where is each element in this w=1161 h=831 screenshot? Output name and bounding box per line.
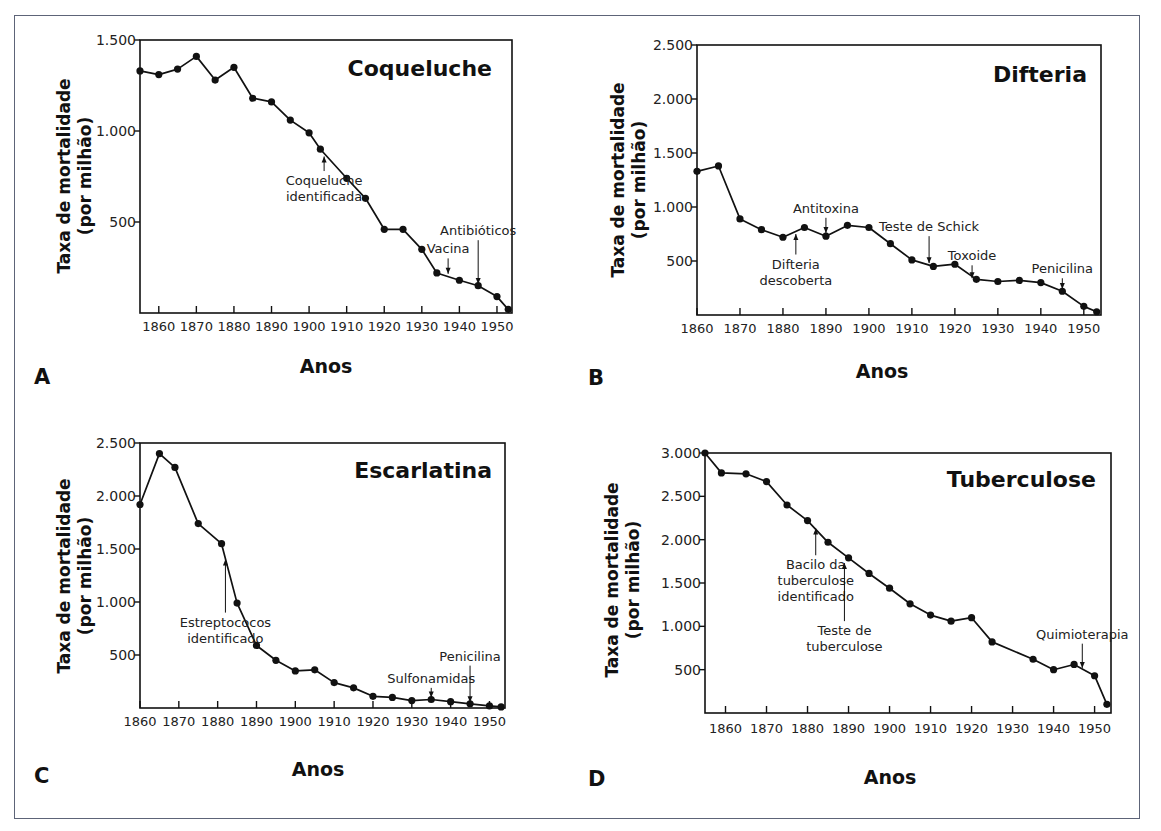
data-point — [1091, 672, 1098, 679]
x-tick-label: 1880 — [791, 721, 824, 736]
x-tick-label: 1860 — [123, 714, 156, 729]
x-axis-title: Anos — [292, 758, 345, 780]
data-point — [742, 470, 749, 477]
x-tick-label: 1880 — [217, 319, 250, 334]
data-point — [195, 520, 202, 527]
y-tick-label: 1.000 — [653, 199, 693, 215]
data-point — [493, 293, 500, 300]
data-point — [249, 95, 256, 102]
annotation-label: Vacina — [427, 241, 470, 256]
data-point — [369, 693, 376, 700]
x-tick-label: 1900 — [852, 321, 885, 336]
data-point — [287, 116, 294, 123]
data-point — [174, 66, 181, 73]
x-tick-label: 1920 — [368, 319, 401, 334]
data-point — [715, 162, 722, 169]
x-axis-title: Anos — [300, 355, 353, 377]
x-tick-label: 1940 — [443, 319, 476, 334]
x-tick-label: 1940 — [1024, 321, 1057, 336]
data-point — [804, 517, 811, 524]
annotation-label: Quimioterapia — [1036, 627, 1129, 642]
y-tick-label: 1.500 — [96, 32, 136, 48]
data-point — [1070, 661, 1077, 668]
data-point — [1050, 666, 1057, 673]
x-tick-label: 1900 — [873, 721, 906, 736]
data-point — [136, 67, 143, 74]
data-point — [783, 501, 790, 508]
x-tick-label: 1890 — [255, 319, 288, 334]
data-point — [801, 224, 808, 231]
x-tick-label: 1910 — [914, 721, 947, 736]
data-point — [136, 501, 143, 508]
y-tick-label: 3.000 — [661, 445, 701, 461]
x-tick-label: 1870 — [723, 321, 756, 336]
data-point — [988, 638, 995, 645]
data-point — [212, 76, 219, 83]
y-axis-title: Taxa de mortalidade(por milhão) — [54, 78, 95, 273]
data-point — [230, 64, 237, 71]
data-point — [305, 129, 312, 136]
x-tick-label: 1950 — [1078, 721, 1111, 736]
annotation-label: identificado — [187, 631, 263, 646]
data-point — [1103, 701, 1110, 708]
x-axis-title: Anos — [856, 360, 909, 382]
data-point — [1093, 308, 1100, 315]
annotation-label: Toxoide — [947, 248, 996, 263]
x-tick-label: 1920 — [356, 714, 389, 729]
data-point — [433, 269, 440, 276]
chart-title: Coqueluche — [348, 56, 492, 81]
x-tick-label: 1930 — [996, 721, 1029, 736]
data-point — [930, 263, 937, 270]
chart-panel-b: 1860187018801890190019101920193019401950… — [588, 37, 1101, 390]
data-point — [1016, 277, 1023, 284]
data-point — [1080, 303, 1087, 310]
x-axis-title: Anos — [864, 766, 917, 788]
data-point — [399, 226, 406, 233]
y-tick-label: 1.500 — [661, 575, 701, 591]
panel-letter: B — [588, 366, 604, 390]
y-tick-label: 1.500 — [96, 541, 136, 557]
arrowhead-icon — [1080, 662, 1085, 668]
data-point — [1037, 279, 1044, 286]
annotation-label: Penicilina — [1032, 261, 1093, 276]
data-point — [886, 585, 893, 592]
x-tick-label: 1880 — [766, 321, 799, 336]
data-point — [156, 450, 163, 457]
x-tick-label: 1900 — [293, 319, 326, 334]
y-tick-label: 500 — [674, 662, 701, 678]
arrowhead-icon — [927, 257, 932, 263]
data-point — [381, 226, 388, 233]
data-point — [779, 234, 786, 241]
data-point — [865, 570, 872, 577]
x-tick-label: 1890 — [832, 721, 865, 736]
annotation-label: Difteria — [772, 257, 820, 272]
data-point — [822, 233, 829, 240]
data-point — [763, 478, 770, 485]
y-axis-title: Taxa de mortalidade(por milhão) — [602, 482, 643, 677]
data-point — [218, 540, 225, 547]
annotation-label: Bacilo da — [786, 557, 846, 572]
y-tick-label: 1.000 — [96, 123, 136, 139]
chart-title: Tuberculose — [947, 467, 1096, 492]
annotation-label: Estreptococos — [180, 615, 272, 630]
data-point — [155, 71, 162, 78]
data-point — [758, 226, 765, 233]
x-tick-label: 1890 — [240, 714, 273, 729]
x-tick-label: 1950 — [1067, 321, 1100, 336]
x-tick-label: 1940 — [1037, 721, 1070, 736]
data-point — [292, 667, 299, 674]
x-tick-label: 1930 — [395, 714, 428, 729]
x-tick-label: 1890 — [809, 321, 842, 336]
arrowhead-icon — [793, 234, 798, 240]
arrowhead-icon — [322, 156, 327, 162]
x-tick-label: 1930 — [981, 321, 1014, 336]
data-point — [845, 554, 852, 561]
chart-panel-a: 1860187018801890190019101920193019401950… — [34, 32, 517, 389]
annotation-label: identificada — [286, 189, 362, 204]
data-point — [693, 168, 700, 175]
y-axis-title: Taxa de mortalidade(por milhão) — [608, 82, 649, 277]
data-point — [906, 600, 913, 607]
y-tick-label: 500 — [666, 253, 693, 269]
x-tick-label: 1940 — [434, 714, 467, 729]
y-tick-label: 500 — [109, 214, 136, 230]
